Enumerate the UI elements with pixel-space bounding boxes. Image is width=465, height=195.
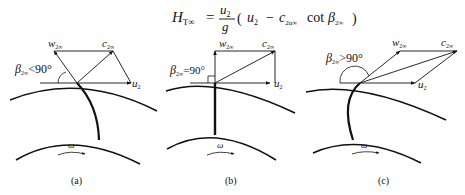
rotation-arrow-icon (58, 152, 85, 155)
c2-vector (77, 51, 113, 83)
outer-arc (306, 89, 446, 120)
w2-label: w2∞ (219, 37, 234, 50)
omega-label: ω (217, 140, 223, 150)
panel-b: w2∞ c2∞ u2 β2∞=90° ω (b) (166, 37, 295, 187)
u2-label: u2 (418, 78, 427, 91)
w2-label: w2∞ (48, 37, 63, 50)
u2-label: u2 (274, 77, 283, 90)
panel-a: w2∞ c2∞ u2 β2∞<90° ω (a) (10, 37, 157, 187)
c2-label: c2∞ (262, 37, 274, 50)
caption-b: (b) (225, 175, 237, 187)
u2-label: u2 (132, 77, 141, 90)
outer-arc (166, 86, 295, 113)
caption-c: (c) (378, 175, 389, 187)
c2-label: c2∞ (102, 37, 114, 50)
rotation-arrow-icon (207, 152, 234, 155)
hub-arc (16, 145, 140, 164)
rotation-arrow-icon (352, 152, 379, 154)
c2-vector (360, 51, 457, 83)
triangle-side (113, 51, 131, 83)
beta-angle-label: β2∞=90° (169, 63, 205, 77)
beta-angle-label: β2∞>90° (325, 51, 363, 65)
angle-arc (58, 72, 66, 83)
right-angle-mark-icon (208, 76, 215, 83)
c2-vector (215, 51, 275, 83)
velocity-triangles-figure: w2∞ c2∞ u2 β2∞<90° ω (a) w2∞ c2∞ u2 β2∞=… (0, 0, 465, 195)
angle-arc (340, 66, 369, 83)
beta-angle-label: β2∞<90° (14, 62, 52, 76)
blade-curve (77, 83, 99, 140)
w2-label: w2∞ (392, 36, 407, 49)
omega-label: ω (361, 140, 367, 150)
c2-label: c2∞ (441, 36, 453, 49)
caption-a: (a) (71, 175, 82, 187)
panel-c: w2∞ c2∞ u2 β2∞>90° ω (c) (306, 36, 457, 187)
w2-vector (54, 51, 77, 83)
w2-vector (360, 51, 400, 83)
omega-label: ω (68, 140, 74, 150)
